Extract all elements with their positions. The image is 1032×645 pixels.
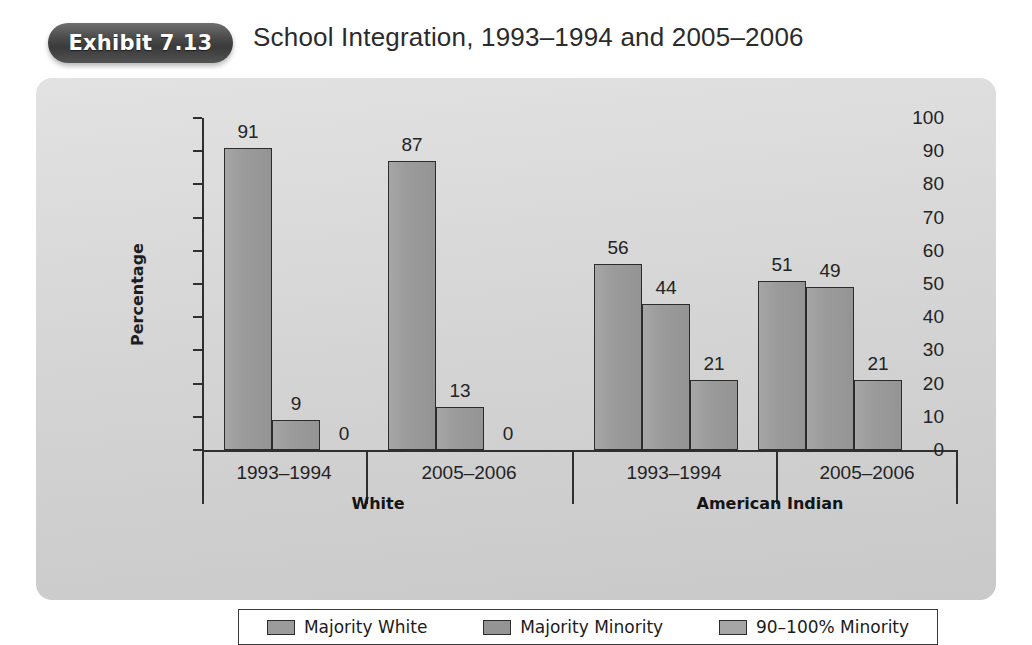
bar-value-label: 44 (655, 277, 676, 299)
page-title: School Integration, 1993–1994 and 2005–2… (253, 22, 804, 53)
chart-panel: 1009080706050403020100 91908713056442151… (36, 78, 996, 600)
x-axis-labels: 1993–19942005–20061993–19942005–2006Whit… (202, 450, 958, 518)
bar (806, 287, 854, 450)
legend-item: 90–100% Minority (719, 617, 909, 637)
legend-label: 90–100% Minority (756, 617, 909, 637)
bar (642, 304, 690, 450)
legend-swatch (267, 620, 295, 635)
bar (690, 380, 738, 450)
exhibit-number-label: Exhibit 7.13 (69, 31, 213, 55)
y-axis-tick-label: 40 (884, 306, 944, 328)
y-axis-tick-label: 30 (884, 339, 944, 361)
bar-value-label: 9 (291, 393, 302, 415)
y-axis-tick (193, 416, 202, 418)
bar (758, 281, 806, 450)
chart-legend: Majority WhiteMajority Minority90–100% M… (238, 609, 938, 645)
legend-label: Majority Minority (520, 617, 663, 637)
bar (388, 161, 436, 450)
y-axis-title: Percentage (128, 243, 147, 346)
legend-swatch (719, 620, 747, 635)
legend-swatch (483, 620, 511, 635)
legend-item: Majority White (267, 617, 427, 637)
bar-value-label: 13 (449, 380, 470, 402)
y-axis-tick-label: 100 (884, 107, 944, 129)
y-axis-tick-label: 60 (884, 240, 944, 262)
bar-value-label: 21 (867, 353, 888, 375)
bar-value-label: 0 (503, 423, 514, 445)
x-axis-period-label: 1993–1994 (236, 462, 331, 484)
x-axis-separator (202, 450, 204, 504)
y-axis-tick (193, 349, 202, 351)
y-axis-tick-label: 70 (884, 207, 944, 229)
x-axis-period-label: 2005–2006 (819, 462, 914, 484)
y-axis-line (202, 118, 204, 450)
x-axis-period-label: 1993–1994 (626, 462, 721, 484)
y-axis-tick (193, 217, 202, 219)
y-axis-tick-label: 50 (884, 273, 944, 295)
x-axis-period-label: 2005–2006 (421, 462, 516, 484)
x-axis-group-label: American Indian (697, 494, 844, 513)
bar (594, 264, 642, 450)
legend-label: Majority White (304, 617, 427, 637)
bar-value-label: 0 (339, 423, 350, 445)
bar (436, 407, 484, 450)
y-axis-tick (193, 250, 202, 252)
y-axis-tick-label: 90 (884, 140, 944, 162)
bar (272, 420, 320, 450)
exhibit-header: Exhibit 7.13 School Integration, 1993–19… (0, 0, 1032, 78)
bar-value-label: 87 (401, 134, 422, 156)
bar (854, 380, 902, 450)
y-axis-tick (193, 117, 202, 119)
plot-area: 1009080706050403020100 91908713056442151… (202, 118, 958, 450)
y-axis-tick (193, 383, 202, 385)
x-axis-separator (956, 450, 958, 504)
bar (224, 148, 272, 450)
exhibit-number-badge: Exhibit 7.13 (48, 23, 233, 63)
y-axis-tick (193, 283, 202, 285)
x-axis-group-label: White (351, 494, 404, 513)
y-axis-tick-label: 80 (884, 173, 944, 195)
bar-value-label: 56 (607, 237, 628, 259)
y-axis-tick (193, 316, 202, 318)
y-axis-tick (193, 449, 202, 451)
legend-item: Majority Minority (483, 617, 663, 637)
y-axis-tick (193, 183, 202, 185)
bar-value-label: 91 (237, 121, 258, 143)
bar-value-label: 49 (819, 260, 840, 282)
x-axis-separator (572, 450, 574, 504)
bar-value-label: 21 (703, 353, 724, 375)
y-axis-tick (193, 150, 202, 152)
bar-value-label: 51 (771, 254, 792, 276)
